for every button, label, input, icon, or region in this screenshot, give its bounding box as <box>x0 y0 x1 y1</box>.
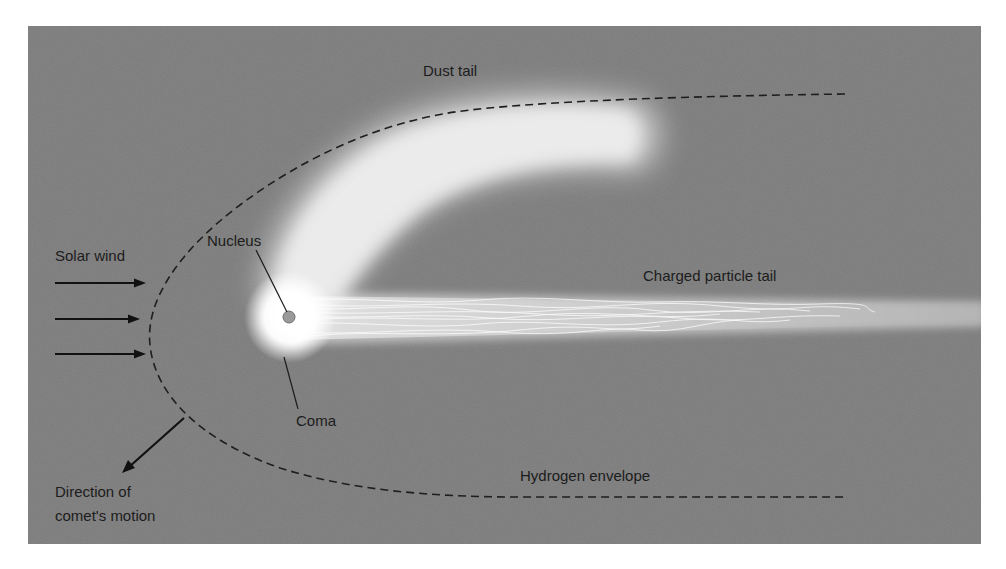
coma-label: Coma <box>296 412 337 429</box>
direction-label-line2: comet's motion <box>55 507 155 524</box>
comet-diagram: Dust tail Solar wind Nucleus Charged par… <box>0 0 1006 569</box>
solar-wind-label: Solar wind <box>55 247 125 264</box>
direction-label-line1: Direction of <box>55 483 132 500</box>
nucleus <box>283 311 295 323</box>
charged-particle-tail-label: Charged particle tail <box>643 267 776 284</box>
nucleus-label: Nucleus <box>207 232 261 249</box>
dust-tail-label: Dust tail <box>423 62 477 79</box>
hydrogen-envelope-label: Hydrogen envelope <box>520 467 650 484</box>
